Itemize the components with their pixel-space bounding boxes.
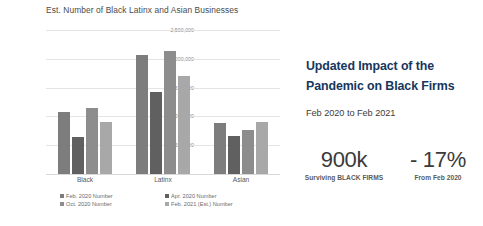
stat-surviving-firms: 900k Surviving BLACK FIRMS	[298, 148, 390, 183]
bar	[242, 130, 254, 174]
bar-group-asian	[214, 30, 268, 174]
legend-item: Apr. 2020 Number	[165, 193, 275, 199]
bar	[178, 76, 190, 174]
bar	[136, 55, 148, 174]
chart-title: Est. Number of Black Latinx and Asian Bu…	[46, 5, 282, 15]
bar-group-black	[58, 30, 112, 174]
legend-label: Feb. 2020 Number	[66, 193, 113, 199]
stat-value: - 17%	[392, 148, 483, 171]
legend-item: Feb. 2020 Number	[60, 193, 165, 199]
bar	[164, 51, 176, 174]
callout-panel: Updated Impact of the Pandemic on Black …	[296, 0, 483, 226]
callout-subhead: Feb 2020 to Feb 2021	[306, 108, 481, 118]
legend-swatch-icon	[165, 194, 169, 198]
stat-label: From Feb 2020	[392, 174, 483, 183]
axis-baseline	[46, 174, 280, 175]
callout-headline: Updated Impact of the Pandemic on Black …	[306, 56, 481, 96]
category-label-asian: Asian	[233, 176, 250, 183]
stat-label: Surviving BLACK FIRMS	[298, 174, 390, 183]
legend-label: Feb. 2021 (Est.) Number	[171, 201, 233, 207]
stat-value: 900k	[298, 148, 390, 171]
slide-canvas: Est. Number of Black Latinx and Asian Bu…	[0, 0, 483, 226]
legend-label: Apr. 2020 Number	[171, 193, 216, 199]
bar-chart: Est. Number of Black Latinx and Asian Bu…	[0, 0, 288, 226]
stat-percent-change: - 17% From Feb 2020	[392, 148, 483, 183]
bar	[214, 123, 226, 174]
category-label-latinx: Latinx	[154, 176, 172, 183]
legend-item: Oct. 2020 Number	[60, 201, 165, 207]
bar	[100, 122, 112, 174]
legend-swatch-icon	[60, 194, 64, 198]
bar	[228, 136, 240, 174]
legend-swatch-icon	[165, 202, 169, 206]
bar	[86, 108, 98, 174]
bar	[58, 112, 70, 174]
bar	[72, 137, 84, 174]
chart-legend: Feb. 2020 NumberApr. 2020 NumberOct. 202…	[60, 193, 275, 207]
legend-swatch-icon	[60, 202, 64, 206]
bar	[256, 122, 268, 174]
category-label-black: Black	[77, 176, 93, 183]
bar	[150, 92, 162, 174]
bar-group-latinx	[136, 30, 190, 174]
legend-item: Feb. 2021 (Est.) Number	[165, 201, 275, 207]
plot-area	[46, 30, 280, 174]
legend-label: Oct. 2020 Number	[66, 201, 112, 207]
